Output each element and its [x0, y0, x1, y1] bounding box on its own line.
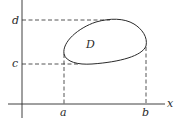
region-diagram: D d c a b x	[0, 0, 175, 122]
diagram-canvas: D d c a b x	[0, 0, 175, 122]
region-label: D	[85, 38, 95, 51]
c-label: c	[12, 57, 18, 70]
a-label: a	[60, 106, 67, 119]
b-label: b	[142, 106, 149, 119]
x-axis-label: x	[167, 97, 174, 110]
d-label: d	[12, 14, 19, 27]
region-d-boundary	[64, 19, 147, 64]
